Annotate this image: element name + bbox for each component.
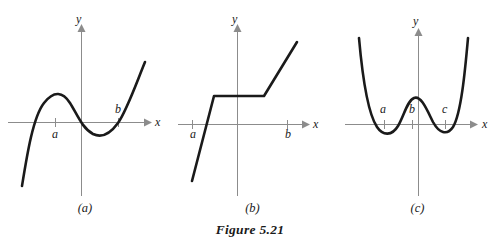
x-axis-arrowhead — [144, 119, 152, 127]
panel-b-plot — [170, 0, 335, 200]
panel-b: a b x y (b) — [170, 0, 335, 200]
y-axis-label: y — [232, 13, 237, 25]
x-axis-label: x — [482, 118, 487, 130]
x-axis-arrowhead — [302, 121, 310, 129]
curve-a — [22, 62, 145, 186]
point-label-a: a — [190, 128, 196, 140]
figure-container: a b x y (a) a b x y (b) — [0, 0, 500, 241]
panel-caption-b: (b) — [170, 202, 335, 215]
y-axis-label: y — [76, 13, 81, 25]
x-axis-label: x — [313, 118, 318, 130]
curve-c — [359, 38, 468, 134]
y-axis-arrowhead — [415, 28, 423, 36]
x-axis-label: x — [155, 116, 160, 128]
panel-c: a b c x y (c) — [335, 0, 500, 200]
x-axis-arrowhead — [470, 121, 478, 129]
panel-c-plot — [335, 0, 500, 200]
point-label-b: b — [409, 103, 415, 115]
point-label-b: b — [115, 103, 121, 115]
curve-b — [192, 42, 297, 181]
y-axis-label: y — [413, 15, 418, 27]
panel-a: a b x y (a) — [0, 0, 170, 200]
panel-a-plot — [0, 0, 170, 200]
point-label-a: a — [52, 128, 58, 140]
point-label-a: a — [380, 103, 386, 115]
panel-caption-a: (a) — [0, 202, 170, 215]
point-label-b: b — [285, 128, 291, 140]
panel-caption-c: (c) — [335, 202, 500, 215]
figure-caption: Figure 5.21 — [0, 222, 500, 238]
point-label-c: c — [442, 103, 447, 115]
